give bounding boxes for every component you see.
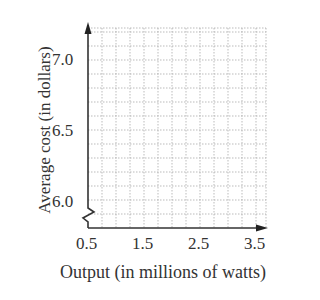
x-tick-label: 1.5 bbox=[132, 234, 153, 254]
y-axis-arrow-icon bbox=[85, 22, 92, 34]
x-axis-arrow-icon bbox=[256, 225, 268, 232]
y-tick-label: 7.0 bbox=[52, 50, 73, 70]
x-tick-label: 2.5 bbox=[188, 234, 209, 254]
y-tick-label: 6.0 bbox=[52, 192, 73, 212]
grid bbox=[88, 28, 266, 228]
x-tick-label: 0.5 bbox=[76, 234, 97, 254]
x-axis-label: Output (in millions of watts) bbox=[60, 262, 266, 283]
axis-break-icon bbox=[83, 205, 94, 228]
y-tick-label: 6.5 bbox=[52, 121, 73, 141]
y-axis-label: Average cost (in dollars) bbox=[35, 30, 55, 230]
x-tick-label: 3.5 bbox=[244, 234, 265, 254]
